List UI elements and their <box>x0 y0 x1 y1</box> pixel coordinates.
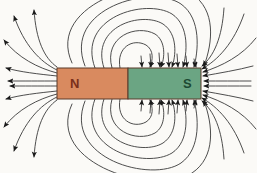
bar-magnet-field-diagram: N S <box>0 0 257 173</box>
north-pole-label: N <box>70 76 79 91</box>
field-arrows-into-south-top <box>141 53 196 67</box>
field-radials-left-lower <box>4 86 57 157</box>
field-lines-svg: N S <box>0 0 257 173</box>
field-arrows-into-south-bottom <box>141 100 196 114</box>
field-loops-lower <box>68 99 211 173</box>
bar-magnet: N S <box>57 68 201 99</box>
field-radials-left-upper <box>4 10 57 81</box>
south-pole-label: S <box>183 76 192 91</box>
field-loops-upper <box>68 0 211 68</box>
north-pole-block <box>57 68 128 99</box>
